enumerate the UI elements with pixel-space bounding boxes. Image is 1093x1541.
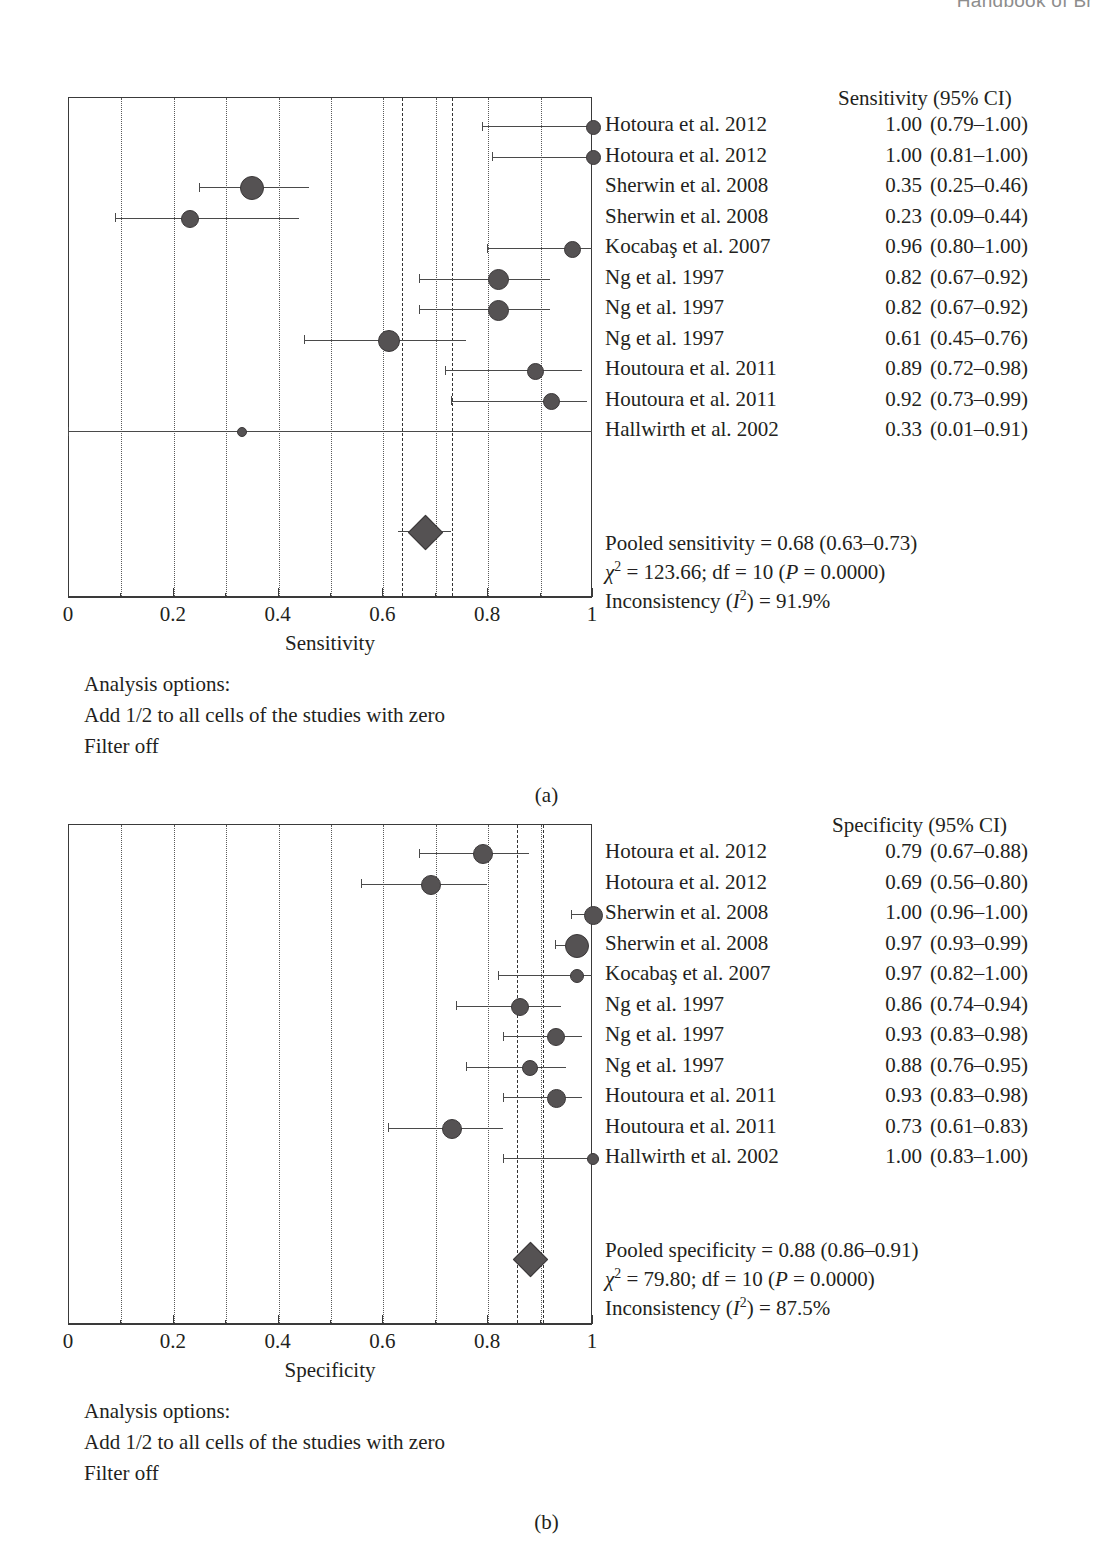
estimate-value: 0.82 — [852, 265, 922, 290]
x-axis-tick-label: 0.8 — [457, 1329, 517, 1354]
estimate-value: 0.88 — [852, 1053, 922, 1078]
estimate-confidence-interval: (0.96–1.00) — [930, 900, 1028, 925]
gridline — [331, 825, 332, 1323]
plot-area — [68, 97, 592, 597]
estimate-value: 0.61 — [852, 326, 922, 351]
x-axis — [68, 597, 592, 598]
gridline — [541, 98, 542, 596]
x-axis-tick-label: 0.2 — [143, 1329, 203, 1354]
analysis-options-line-2: Add 1/2 to all cells of the studies with… — [84, 700, 445, 731]
estimate-value: 0.93 — [852, 1022, 922, 1047]
x-axis-tick-label: 1 — [562, 1329, 622, 1354]
study-label: Houtoura et al. 2011 — [605, 1114, 777, 1139]
x-axis-tick-label: 0.4 — [248, 1329, 308, 1354]
analysis-options-line-3: Filter off — [84, 1458, 445, 1489]
gridline — [488, 825, 489, 1323]
confidence-interval-line — [445, 370, 581, 371]
estimate-confidence-interval: (0.72–0.98) — [930, 356, 1028, 381]
estimate-confidence-interval: (0.61–0.83) — [930, 1114, 1028, 1139]
analysis-options-line-1: Analysis options: — [84, 1396, 445, 1427]
pooled-statistics: Pooled sensitivity = 0.68 (0.63–0.73)χ2 … — [605, 529, 917, 615]
study-label: Kocabaş et al. 2007 — [605, 961, 771, 986]
study-marker — [586, 150, 601, 165]
study-label: Hotoura et al. 2012 — [605, 870, 767, 895]
confidence-interval-cap — [466, 1062, 467, 1071]
estimate-confidence-interval: (0.67–0.88) — [930, 839, 1028, 864]
gridline — [174, 825, 175, 1323]
gridline — [436, 825, 437, 1323]
analysis-options: Analysis options:Add 1/2 to all cells of… — [84, 1396, 445, 1489]
estimate-value: 1.00 — [852, 1144, 922, 1169]
confidence-interval-line — [451, 401, 587, 402]
estimate-value: 1.00 — [852, 143, 922, 168]
estimate-confidence-interval: (0.25–0.46) — [930, 173, 1028, 198]
pooled-statistics: Pooled specificity = 0.88 (0.86–0.91)χ2 … — [605, 1236, 918, 1322]
estimate-value: 0.33 — [852, 417, 922, 442]
x-axis — [68, 1324, 592, 1325]
estimate-value: 1.00 — [852, 900, 922, 925]
study-marker — [181, 210, 199, 228]
study-label: Kocabaş et al. 2007 — [605, 234, 771, 259]
gridline — [279, 825, 280, 1323]
confidence-interval-cap — [388, 1123, 389, 1132]
x-axis-tick-major — [382, 588, 383, 597]
confidence-interval-line — [503, 1158, 592, 1159]
x-axis-tick-major — [382, 1315, 383, 1324]
confidence-interval-line — [68, 431, 592, 432]
estimate-value: 0.82 — [852, 295, 922, 320]
panel-letter: (a) — [0, 783, 1093, 808]
study-marker — [586, 120, 601, 135]
study-label: Ng et al. 1997 — [605, 992, 724, 1017]
x-axis-tick-minor — [120, 1320, 121, 1324]
x-axis-title: Sensitivity — [210, 631, 450, 656]
study-label: Houtoura et al. 2011 — [605, 356, 777, 381]
estimate-value: 0.35 — [852, 173, 922, 198]
estimate-confidence-interval: (0.83–1.00) — [930, 1144, 1028, 1169]
x-axis-tick-major — [278, 1315, 279, 1324]
study-label: Houtoura et al. 2011 — [605, 1083, 777, 1108]
gridline — [226, 98, 227, 596]
x-axis-tick-major — [487, 1315, 488, 1324]
confidence-interval-line — [419, 309, 550, 310]
x-axis-tick-label: 0.2 — [143, 602, 203, 627]
estimate-confidence-interval: (0.09–0.44) — [930, 204, 1028, 229]
confidence-interval-cap — [304, 335, 305, 344]
confidence-interval-cap — [361, 879, 362, 888]
study-marker — [442, 1119, 462, 1139]
study-marker — [522, 1060, 538, 1076]
study-marker — [473, 844, 493, 864]
analysis-options: Analysis options:Add 1/2 to all cells of… — [84, 669, 445, 762]
estimate-confidence-interval: (0.73–0.99) — [930, 387, 1028, 412]
study-label: Sherwin et al. 2008 — [605, 173, 768, 198]
gridline — [436, 98, 437, 596]
estimate-value: 0.97 — [852, 961, 922, 986]
x-axis-tick-label: 0.6 — [352, 602, 412, 627]
study-label: Sherwin et al. 2008 — [605, 931, 768, 956]
estimate-value: 0.79 — [852, 839, 922, 864]
study-marker — [584, 906, 603, 925]
study-label: Ng et al. 1997 — [605, 265, 724, 290]
x-axis-tick-minor — [435, 1320, 436, 1324]
study-label: Houtoura et al. 2011 — [605, 387, 777, 412]
study-label: Hotoura et al. 2012 — [605, 143, 767, 168]
estimate-confidence-interval: (0.82–1.00) — [930, 961, 1028, 986]
x-axis-tick-major — [68, 1315, 69, 1324]
confidence-interval-cap — [503, 1154, 504, 1163]
study-marker — [378, 330, 400, 352]
study-label: Ng et al. 1997 — [605, 1022, 724, 1047]
confidence-interval-cap — [571, 910, 572, 919]
study-label: Sherwin et al. 2008 — [605, 204, 768, 229]
x-axis-tick-major — [487, 588, 488, 597]
study-label: Hotoura et al. 2012 — [605, 839, 767, 864]
estimate-confidence-interval: (0.93–0.99) — [930, 931, 1028, 956]
gridline — [383, 825, 384, 1323]
confidence-interval-line — [456, 1006, 561, 1007]
study-marker — [488, 300, 509, 321]
estimate-confidence-interval: (0.67–0.92) — [930, 265, 1028, 290]
estimate-confidence-interval: (0.45–0.76) — [930, 326, 1028, 351]
estimate-value: 1.00 — [852, 112, 922, 137]
x-axis-tick-label: 0 — [38, 1329, 98, 1354]
pooled-estimate-line: Pooled specificity = 0.88 (0.86–0.91) — [605, 1236, 918, 1264]
pooled-reference-line — [452, 98, 453, 596]
x-axis-tick-minor — [225, 1320, 226, 1324]
